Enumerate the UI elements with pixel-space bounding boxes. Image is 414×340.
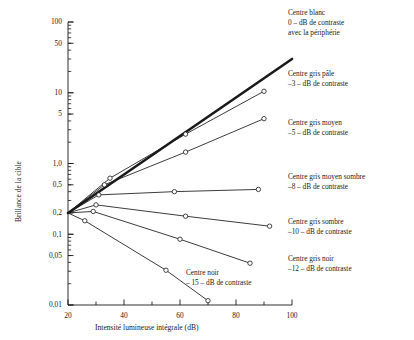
annotation-centre-gris-moyen-sombre: Centre gris moyen sombre –8 – dB de cont…: [288, 172, 365, 192]
data-point-marker: [206, 299, 210, 303]
data-point-marker: [267, 224, 271, 228]
y-tick-label-0-01: 0,01: [20, 300, 62, 309]
annotation-line: Centre gris moyen sombre: [288, 172, 365, 182]
y-tick-label-0-5: 0,5: [20, 180, 62, 189]
annotation-line: Centre gris sombre: [288, 217, 352, 227]
y-tick-label-50: 50: [20, 39, 62, 48]
annotation-line: –10 – dB de contraste: [288, 227, 352, 237]
chart-figure: 100 50 10 5 1,0 0,5 0,2 0,1 0,05 0,01 20…: [0, 0, 414, 340]
data-point-marker: [183, 150, 187, 154]
data-point-marker: [108, 176, 112, 180]
plot-canvas: [0, 0, 414, 340]
annotation-line: Centre blanc: [288, 8, 344, 18]
annotation-centre-gris-noir: Centre gris noir –12 – dB de contraste: [288, 254, 352, 274]
annotation-line: Centre gris pâle: [288, 69, 348, 79]
annotation-centre-gris-sombre: Centre gris sombre –10 – dB de contraste: [288, 217, 352, 237]
data-point-marker: [164, 268, 168, 272]
annotation-line: avec la périphérie: [288, 28, 344, 38]
x-axis-title: Intensité lumineuse intégrale (dB): [95, 323, 199, 332]
annotation-line: Centre gris moyen: [288, 118, 348, 128]
annotation-line: Centre gris noir: [288, 254, 352, 264]
annotation-line: Centre noir: [186, 268, 251, 278]
data-point-marker: [256, 187, 260, 191]
annotation-line: –3 – dB de contraste: [288, 79, 348, 89]
x-tick-label-60: 60: [164, 311, 196, 320]
data-point-marker: [97, 193, 101, 197]
annotation-line: –5 – dB de contraste: [288, 128, 348, 138]
annotation-line: 0 – dB de contraste: [288, 18, 344, 28]
data-point-marker: [262, 116, 266, 120]
data-point-marker: [183, 132, 187, 136]
data-point-marker: [94, 203, 98, 207]
data-point-marker: [172, 189, 176, 193]
y-tick-label-0-05: 0,05: [20, 251, 62, 260]
data-point-marker: [91, 209, 95, 213]
data-point-marker: [262, 89, 266, 93]
annotation-centre-gris-pale: Centre gris pâle –3 – dB de contraste: [288, 69, 348, 89]
data-point-marker: [183, 214, 187, 218]
x-tick-label-40: 40: [108, 311, 140, 320]
y-tick-label-10: 10: [20, 88, 62, 97]
series-line: [68, 211, 250, 263]
x-tick-label-20: 20: [52, 311, 84, 320]
data-point-marker: [83, 219, 87, 223]
y-axis-title: Brillance de la cible: [14, 161, 23, 222]
x-tick-label-80: 80: [220, 311, 252, 320]
annotation-centre-gris-moyen: Centre gris moyen –5 – dB de contraste: [288, 118, 348, 138]
annotation-centre-blanc: Centre blanc 0 – dB de contraste avec la…: [288, 8, 344, 37]
annotation-line: –8 – dB de contraste: [288, 182, 365, 192]
y-tick-label-0-1: 0,1: [20, 230, 62, 239]
y-tick-label-1: 1,0: [20, 159, 62, 168]
annotation-centre-noir: Centre noir – 15 – dB de contraste: [186, 268, 251, 288]
y-tick-label-0-2: 0,2: [20, 208, 62, 217]
y-tick-label-5: 5: [20, 109, 62, 118]
y-tick-label-100: 100: [20, 17, 62, 26]
series-line: [68, 205, 270, 226]
series-line: [68, 119, 264, 213]
annotation-line: –12 – dB de contraste: [288, 264, 352, 274]
annotation-line: – 15 – dB de contraste: [186, 278, 251, 288]
data-point-marker: [178, 237, 182, 241]
data-point-marker: [102, 183, 106, 187]
x-tick-label-100: 100: [276, 311, 308, 320]
data-point-marker: [248, 261, 252, 265]
